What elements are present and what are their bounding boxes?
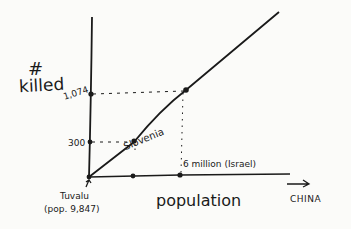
guide-1074-horizontal — [93, 91, 184, 94]
tuvalu-pointer-icon — [86, 180, 91, 187]
y-axis-label: killed — [19, 76, 65, 95]
x-axis-label: population — [156, 193, 241, 209]
annotation-tuvalu-population: (pop. 9,847) — [44, 205, 99, 214]
x-axis — [89, 174, 290, 177]
point-israel — [183, 87, 189, 93]
annotation-israel: 6 million (Israel) — [183, 160, 256, 169]
arrow-icon — [287, 180, 309, 187]
annotation-tuvalu: Tuvalu — [60, 192, 89, 201]
point-slovenia-x-axis — [131, 174, 136, 179]
y-axis — [89, 17, 92, 177]
point-origin — [87, 175, 92, 180]
data-line — [89, 12, 279, 177]
annotation-china: CHINA — [290, 195, 321, 204]
point-israel-x-axis — [177, 172, 182, 177]
point-300-y-axis — [88, 140, 93, 145]
y-tick-300: 300 — [68, 139, 85, 148]
